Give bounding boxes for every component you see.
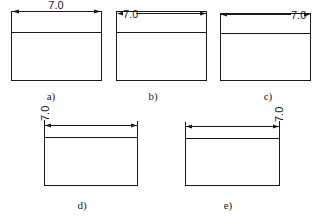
panel-d-rect [45,126,138,186]
panel-a-rect [12,12,102,81]
arrow-right-icon [94,10,101,14]
panel-b-rect [117,12,207,81]
panel-b-dimension-text: 7.0 [123,8,138,20]
arrow-right-icon [273,125,279,129]
panel-c: 7.0 c) [221,9,311,104]
arrow-right-icon [131,124,137,128]
panel-e-rect [186,127,280,186]
panel-b: 7.0 b) [117,8,207,104]
panel-d: 7.0 d) [39,106,138,212]
panel-a-dimension-text: 7.0 [48,0,63,11]
panel-a: 7.0 a) [12,0,102,103]
panel-a-caption: a) [47,90,56,103]
panel-b-caption: b) [148,90,158,103]
arrow-left-icon [45,124,51,128]
arrow-left-icon [186,125,192,129]
dimensioning-diagram: 7.0 a) 7.0 b) 7.0 c) 7.0 d) [0,0,317,218]
panel-e: 7.0 e) [186,107,286,212]
panel-e-dimension-text: 7.0 [273,107,285,122]
panel-c-dimension-text: 7.0 [291,9,306,21]
arrow-left-icon [12,10,19,14]
panel-d-caption: d) [77,199,87,212]
arrow-right-icon [200,12,206,16]
panel-c-rect [221,14,311,81]
panel-d-dimension-text: 7.0 [39,106,51,121]
panel-e-caption: e) [224,199,233,212]
panel-c-caption: c) [264,90,273,103]
